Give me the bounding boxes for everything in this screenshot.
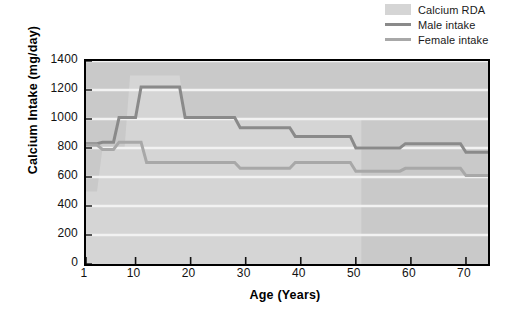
x-tick-label: 70	[457, 266, 471, 280]
x-tick-label: 60	[402, 266, 416, 280]
legend-swatch-line	[385, 38, 411, 41]
y-tick-label: 200	[34, 226, 78, 240]
legend-label: Male intake	[418, 19, 475, 31]
x-tick-label: 30	[237, 266, 251, 280]
y-tick-label: 600	[34, 168, 78, 182]
y-tick-label: 1400	[34, 52, 78, 66]
y-axis-label: Calcium Intake (mg/day)	[26, 5, 40, 195]
x-tick-label: 20	[182, 266, 196, 280]
legend-label: Calcium RDA	[418, 4, 485, 16]
y-tick-label: 400	[34, 197, 78, 211]
x-tick-label: 1	[81, 266, 88, 280]
x-axis-label: Age (Years)	[84, 288, 486, 302]
y-tick-label: 1000	[34, 110, 78, 124]
legend-swatch-line	[385, 23, 411, 26]
chart-canvas	[86, 61, 488, 264]
y-tick-label: 1200	[34, 81, 78, 95]
legend-calcium-rda: Calcium RDA	[385, 2, 513, 17]
legend-male-intake: Male intake	[385, 17, 513, 32]
plot-inner	[86, 61, 488, 264]
x-tick-label: 10	[127, 266, 141, 280]
chart-screenshot: Calcium RDAMale intakeFemale intake 0200…	[0, 0, 514, 315]
y-tick-label: 0	[34, 255, 78, 269]
chart-legend: Calcium RDAMale intakeFemale intake	[385, 2, 513, 47]
y-tick-label: 800	[34, 139, 78, 153]
legend-swatch-band	[385, 4, 411, 15]
x-axis-ticks: 110203040506070	[84, 266, 486, 284]
legend-female-intake: Female intake	[385, 32, 513, 47]
x-tick-label: 40	[292, 266, 306, 280]
legend-label: Female intake	[418, 34, 488, 46]
plot-area	[84, 59, 490, 266]
x-tick-label: 50	[347, 266, 361, 280]
